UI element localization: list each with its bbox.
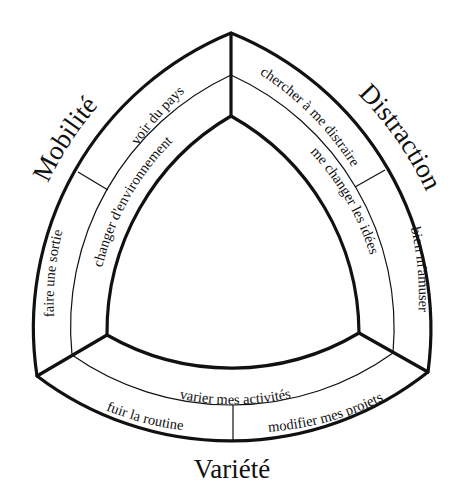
reuleaux-diagram: voir du pays faire une sortie chercher à…: [0, 0, 464, 503]
label-bien-m-amuser: bien m'amuser: [408, 225, 432, 312]
category-variete: Variété: [194, 454, 270, 484]
category-mobilite: Mobilité: [26, 90, 103, 186]
subdivider-distraction: [355, 170, 385, 187]
label-varier-mes-activites: varier mes activités: [179, 385, 293, 407]
subdivider-mobilite: [78, 172, 108, 190]
middle-boundary: [71, 75, 395, 405]
